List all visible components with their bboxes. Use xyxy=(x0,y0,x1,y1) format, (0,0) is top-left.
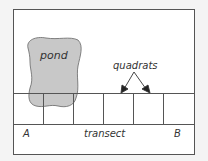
point-a-label: A xyxy=(22,128,30,139)
quadrats-label: quadrats xyxy=(113,60,158,71)
transect-diagram: pond quadrats A transect B xyxy=(0,0,208,161)
pond-label: pond xyxy=(39,49,69,62)
point-b-label: B xyxy=(174,128,181,139)
transect-label: transect xyxy=(84,128,126,139)
